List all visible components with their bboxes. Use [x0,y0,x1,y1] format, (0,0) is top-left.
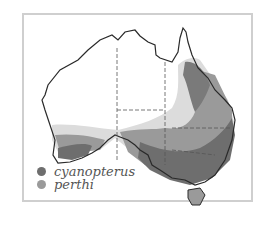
perthi-swatch-icon [37,180,46,189]
tasmania [188,188,205,205]
cyanopterus-swatch-icon [37,167,46,176]
legend-item-perthi: perthi [37,178,135,191]
legend-label: perthi [54,178,94,191]
legend: cyanopterus perthi [37,165,135,191]
australia-distribution-map [0,0,269,233]
